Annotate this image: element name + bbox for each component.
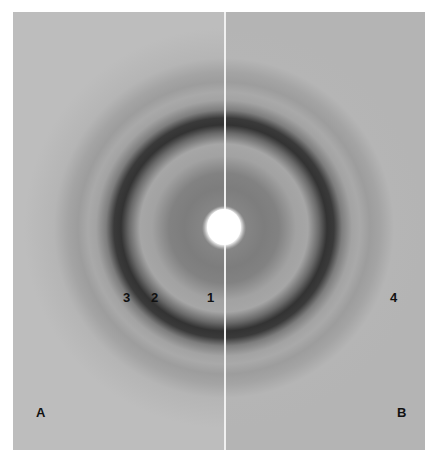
panel-label-a: A	[36, 405, 45, 420]
central-beam-spot	[207, 209, 241, 245]
diffraction-photo: 3 2 1 4 A B	[13, 12, 425, 450]
panel-label-b: B	[397, 405, 406, 420]
ring-label-2: 2	[151, 290, 158, 305]
ring-label-4: 4	[390, 290, 397, 305]
ring-label-3: 3	[123, 290, 130, 305]
ring-label-1: 1	[207, 290, 214, 305]
